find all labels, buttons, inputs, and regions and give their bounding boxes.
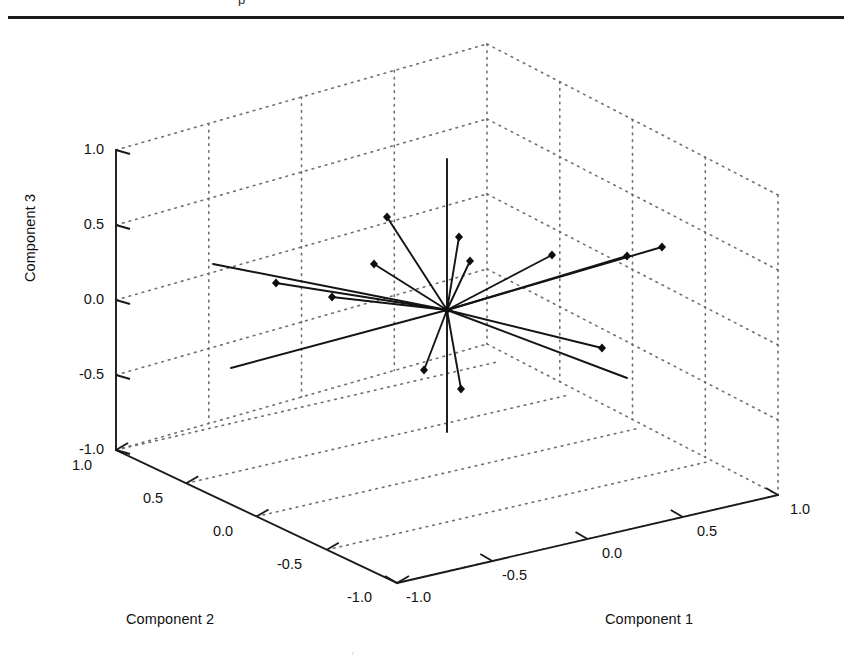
y-axis-title: Component 2 (126, 611, 214, 627)
x-tick-label-4: 1.0 (790, 501, 810, 517)
x-tick-label-1: -0.5 (502, 567, 527, 583)
figure-container: p (0, 0, 852, 670)
back-wall-right-grid (487, 44, 778, 495)
x-axis-title: Component 1 (605, 611, 693, 627)
three-d-biplot-canvas (0, 0, 852, 670)
z-axis-ticks (116, 150, 130, 454)
vector-v8 (447, 256, 627, 310)
marker-v13 (420, 365, 428, 374)
z-tick-label-3: -0.5 (50, 366, 104, 382)
x-tick-label-2: 0.0 (602, 545, 622, 561)
vector-v11 (447, 310, 602, 348)
y-tick-label-4: -1.0 (347, 589, 372, 605)
marker-v6 (272, 278, 280, 287)
y-tick-label-3: -0.5 (277, 556, 302, 572)
marker-v8 (623, 251, 631, 260)
loading-vectors (213, 159, 662, 432)
vector-v1 (387, 217, 447, 310)
marker-v2 (455, 232, 463, 241)
z-tick-label-1: 0.5 (56, 216, 104, 232)
z-axis-title: Component 3 (22, 178, 38, 298)
marker-v3 (466, 256, 474, 265)
x-tick-label-0: -1.0 (406, 589, 431, 605)
y-tick-label-2: 0.0 (213, 523, 233, 539)
marker-v14 (457, 384, 465, 393)
z-tick-label-4: -1.0 (50, 441, 104, 457)
marker-v7 (658, 242, 666, 251)
vector-v14 (447, 310, 461, 389)
x-tick-label-3: 0.5 (697, 523, 717, 539)
vector-v13 (424, 310, 447, 370)
vector-long-left-lower (231, 310, 447, 368)
marker-v11 (598, 343, 606, 352)
floor-grid-mask (0, 450, 852, 670)
marker-v5 (548, 250, 556, 259)
z-tick-label-0: 1.0 (56, 141, 104, 157)
marker-v9 (328, 292, 336, 301)
y-tick-label-0: 1.0 (72, 457, 92, 473)
z-tick-label-2: 0.0 (56, 291, 104, 307)
marker-v4 (370, 259, 378, 268)
back-wall-left-grid (116, 44, 487, 450)
y-tick-label-1: 0.5 (143, 490, 163, 506)
